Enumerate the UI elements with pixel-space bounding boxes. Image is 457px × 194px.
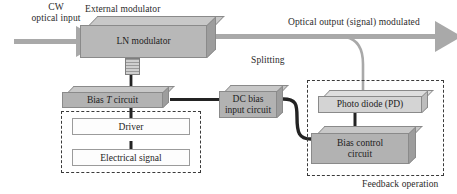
photo-diode-front-face: Photo diode (PD)	[318, 96, 422, 113]
ln-modulator-top-face	[89, 16, 225, 25]
bias-t-label: Bias T circuit	[87, 95, 138, 106]
driver-label: Driver	[119, 122, 144, 132]
bias-t-label-post: circuit	[111, 95, 138, 105]
bias-control-side-face	[409, 126, 416, 164]
dc-bias-side-face	[277, 85, 283, 118]
driver-block: Driver	[72, 118, 190, 135]
ln-modulator-side-face	[207, 16, 216, 58]
feedback-operation-label: Feedback operation	[362, 179, 438, 190]
optical-output-label: Optical output (signal) modulated	[288, 17, 420, 28]
bias-control-label-line2: circuit	[348, 149, 372, 160]
ln-modulator-block: LN modulator	[80, 16, 216, 58]
bias-control-circuit-block: Bias control circuit	[311, 126, 416, 164]
bias-t-circuit-block: Bias T circuit	[62, 86, 170, 108]
bias-t-front-face: Bias T circuit	[62, 92, 163, 108]
dc-bias-front-face: DC bias input circuit	[219, 91, 277, 118]
splitting-label: Splitting	[251, 55, 285, 66]
electrical-signal-label: Electrical signal	[100, 153, 161, 163]
bias-control-label-line1: Bias control	[337, 138, 383, 149]
dc-bias-label-line1: DC bias	[233, 94, 264, 105]
bias-t-label-pre: Bias	[87, 95, 106, 105]
photo-diode-side-face	[422, 90, 428, 113]
bias-control-top-face	[318, 126, 423, 133]
external-modulator-label: External modulator	[85, 4, 160, 15]
ln-modulator-label: LN modulator	[116, 36, 170, 47]
bias-control-front-face: Bias control circuit	[311, 133, 409, 164]
modulator-bias-control-diagram: CW optical input External modulator Opti…	[0, 0, 457, 194]
dc-bias-input-circuit-block: DC bias input circuit	[219, 85, 283, 118]
bias-t-side-face	[163, 86, 169, 108]
modulator-rf-connector	[125, 58, 140, 75]
photo-diode-label: Photo diode (PD)	[337, 99, 404, 110]
electrical-signal-block: Electrical signal	[72, 149, 190, 166]
photo-diode-block: Photo diode (PD)	[318, 90, 428, 113]
dc-bias-label-line2: input circuit	[225, 105, 271, 116]
ln-modulator-front-face: LN modulator	[80, 25, 207, 58]
